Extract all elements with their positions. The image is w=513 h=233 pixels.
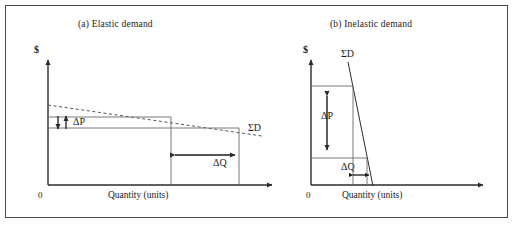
panel-inelastic-demand: (b) Inelastic demand $ 0 Quantity (units…: [285, 0, 503, 213]
panel-a-demand-curve: [48, 105, 262, 136]
panel-a-graphics: [0, 0, 285, 213]
panel-b-demand-curve: [348, 62, 373, 186]
panel-elastic-demand: (a) Elastic demand $ 0 Quantity (units) …: [0, 0, 285, 213]
panel-b-graphics: [285, 0, 503, 213]
figure-elastic-inelastic-demand: (a) Elastic demand $ 0 Quantity (units) …: [0, 0, 513, 233]
